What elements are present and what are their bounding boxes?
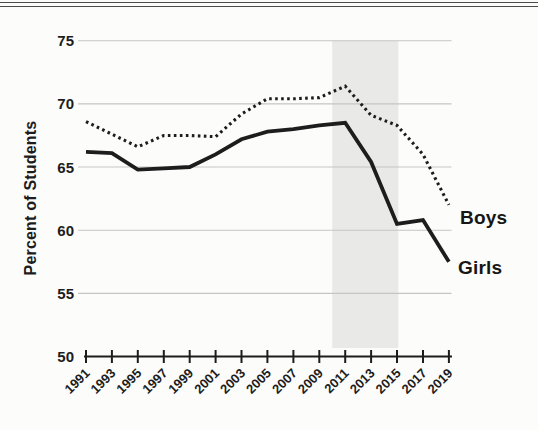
x-tick-label-2007: 2007 — [269, 366, 300, 397]
y-tick-label-60: 60 — [57, 222, 74, 239]
x-tick-label-2003: 2003 — [217, 366, 248, 397]
y-tick-label-55: 55 — [57, 285, 74, 302]
x-tick-label-1993: 1993 — [87, 366, 118, 397]
y-tick-label-75: 75 — [57, 32, 74, 49]
x-tick-label-2005: 2005 — [243, 366, 274, 397]
x-tick-label-2017: 2017 — [399, 366, 430, 397]
x-tick-label-2013: 2013 — [347, 366, 378, 397]
y-tick-label-50: 50 — [57, 348, 74, 365]
y-axis-title: Percent of Students — [22, 121, 40, 276]
x-tick-label-2009: 2009 — [295, 366, 326, 397]
series-label-girls: Girls — [458, 257, 502, 279]
x-tick-label-1999: 1999 — [165, 366, 196, 397]
highlight-band — [332, 41, 398, 348]
x-tick-label-2011: 2011 — [321, 366, 352, 397]
chart-plot: 5055606570751991199319951997199920012003… — [0, 0, 538, 430]
y-tick-label-65: 65 — [57, 159, 74, 176]
x-tick-label-2019: 2019 — [424, 366, 455, 397]
x-tick-label-1995: 1995 — [113, 366, 144, 397]
y-tick-label-70: 70 — [57, 95, 74, 112]
book-page: 5055606570751991199319951997199920012003… — [0, 0, 538, 430]
x-tick-label-1997: 1997 — [139, 366, 170, 397]
series-label-boys: Boys — [460, 207, 507, 229]
x-tick-label-2001: 2001 — [191, 366, 222, 397]
x-tick-label-1991: 1991 — [62, 366, 93, 397]
x-tick-label-2015: 2015 — [373, 366, 404, 397]
